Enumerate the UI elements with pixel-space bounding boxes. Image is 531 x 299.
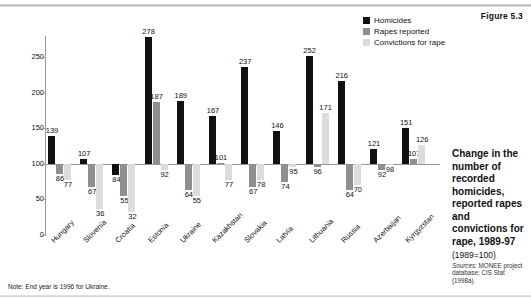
caption-sources: Sources: MONEE project database; CIS Sta… — [452, 262, 527, 284]
bar-homicides — [112, 164, 119, 175]
bar-homicides — [402, 128, 409, 164]
caption-sources-label: Sources: — [452, 262, 477, 269]
bar-value-label: 96 — [308, 168, 328, 176]
bar-value-label: 77 — [219, 181, 239, 189]
bar-value-label: 92 — [155, 171, 175, 179]
bar-value-label: 187 — [147, 93, 167, 101]
bar-value-label: 139 — [42, 127, 62, 135]
bar-convictions-for-rape — [64, 164, 71, 180]
bar-value-label: 126 — [412, 136, 432, 144]
bar-group: 1398677 — [48, 18, 74, 237]
bar-homicides — [48, 136, 55, 164]
bar-value-label: 167 — [203, 107, 223, 115]
y-tick-mark — [42, 93, 46, 94]
figure-root: Figure 5.3 Homicides Rapes reported Conv… — [0, 0, 531, 299]
chart-plot-area: 050100150200250 139867710767368455322781… — [0, 18, 440, 258]
chart-note: Note: End year is 1996 for Ukraine. — [8, 283, 110, 290]
bar-value-label: 32 — [122, 213, 142, 221]
bar-homicides — [241, 67, 248, 164]
bar-group: 1076736 — [80, 18, 106, 237]
bar-value-label: 70 — [348, 186, 368, 194]
bar-value-label: 36 — [90, 210, 110, 218]
bar-convictions-for-rape — [161, 164, 168, 170]
bar-group: 16710177 — [209, 18, 235, 237]
bar-rapes-reported — [88, 164, 95, 187]
bar-rapes-reported — [120, 164, 127, 196]
figure-caption: Change in the number of recorded homicid… — [452, 148, 527, 284]
bar-value-label: 77 — [58, 181, 78, 189]
bar-group: 2166470 — [338, 18, 364, 237]
figure-number: Figure 5.3 — [481, 11, 523, 21]
bar-homicides — [338, 81, 345, 163]
bar-value-label: 278 — [139, 28, 159, 36]
bar-groups: 1398677107673684553227818792189645516710… — [48, 18, 438, 223]
bar-value-label: 171 — [316, 104, 336, 112]
bar-value-label: 189 — [171, 92, 191, 100]
bar-value-label: 55 — [187, 197, 207, 205]
bar-rapes-reported — [185, 164, 192, 190]
bar-rapes-reported — [56, 164, 63, 174]
bar-homicides — [273, 131, 280, 164]
bar-homicides — [80, 159, 87, 164]
bar-group: 845532 — [112, 18, 138, 237]
bar-convictions-for-rape — [193, 164, 200, 196]
bar-value-label: 146 — [267, 122, 287, 130]
bar-rapes-reported — [217, 163, 224, 164]
bar-group: 151107126 — [402, 18, 428, 237]
bar-value-label: 151 — [396, 119, 416, 127]
bar-value-label: 216 — [332, 72, 352, 80]
bar-convictions-for-rape — [225, 164, 232, 180]
bar-value-label: 74 — [275, 183, 295, 191]
bar-convictions-for-rape — [354, 164, 361, 185]
bar-convictions-for-rape — [257, 164, 264, 180]
bar-convictions-for-rape — [418, 145, 425, 163]
y-tick-mark — [42, 57, 46, 58]
bar-group: 2376778 — [241, 18, 267, 237]
bottom-divider — [0, 295, 531, 297]
bar-homicides — [370, 149, 377, 164]
y-tick-mark — [42, 199, 46, 200]
bar-homicides — [177, 101, 184, 164]
bar-group: 25296171 — [306, 18, 332, 237]
bar-value-label: 121 — [364, 140, 384, 148]
bar-group: 27818792 — [145, 18, 171, 237]
bar-value-label: 95 — [283, 168, 303, 176]
bar-value-label: 252 — [300, 47, 320, 55]
bar-value-label: 78 — [251, 181, 271, 189]
bar-value-label: 107 — [74, 150, 94, 158]
bar-value-label: 98 — [380, 166, 400, 174]
bar-rapes-reported — [153, 102, 160, 164]
bar-rapes-reported — [410, 159, 417, 164]
caption-subtitle: (1989=100) — [452, 250, 527, 260]
bar-group: 1467495 — [273, 18, 299, 237]
bar-convictions-for-rape — [96, 164, 103, 209]
bar-value-label: 237 — [235, 58, 255, 66]
y-axis-line — [45, 36, 46, 235]
bar-convictions-for-rape — [128, 164, 135, 212]
caption-title: Change in the number of recorded homicid… — [452, 148, 527, 248]
bar-homicides — [306, 56, 313, 164]
bar-group: 1219298 — [370, 18, 396, 237]
bar-group: 1896455 — [177, 18, 203, 237]
y-tick-mark — [42, 235, 46, 236]
bar-convictions-for-rape — [322, 113, 329, 163]
bar-value-label: 67 — [243, 188, 263, 196]
top-divider — [0, 4, 531, 7]
bar-value-label: 101 — [211, 154, 231, 162]
